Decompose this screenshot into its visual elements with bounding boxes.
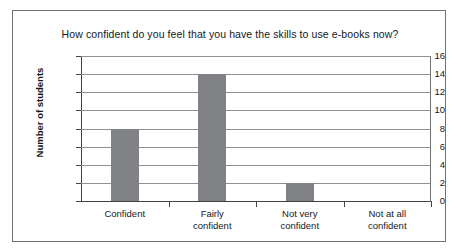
y-axis-tick [76,165,81,166]
y-axis-tick-label: 0 [399,195,445,206]
x-axis-label-line: confident [334,220,442,232]
y-axis-tick-label: 2 [399,177,445,188]
y-axis-title: Number of students [34,43,45,183]
y-axis-tick [76,201,81,202]
gridline [81,110,431,111]
x-axis-tick [431,202,432,207]
chart-title: How confident do you feel that you have … [13,28,447,40]
y-axis-tick-label: 16 [399,50,445,61]
x-axis-tick [169,202,170,207]
y-axis-tick-label: 8 [399,123,445,134]
bar [286,183,314,201]
y-axis-tick [76,56,81,57]
y-axis-tick [76,183,81,184]
x-axis-tick [344,202,345,207]
x-axis-label: Not at allconfident [334,208,442,232]
y-axis-tick [76,74,81,75]
bar [198,74,226,201]
bar [111,129,139,202]
y-axis-tick [76,110,81,111]
chart-frame: How confident do you feel that you have … [12,10,446,242]
y-axis-tick [76,129,81,130]
gridline [81,74,431,75]
y-axis-tick [76,92,81,93]
gridline [81,56,431,57]
y-axis-tick-label: 12 [399,86,445,97]
gridline [81,92,431,93]
plot-area [81,56,431,201]
x-axis-label-line: Not at all [334,208,442,220]
y-axis-tick-label: 14 [399,68,445,79]
y-axis-tick-label: 10 [399,104,445,115]
y-axis-tick [76,147,81,148]
x-axis-tick [256,202,257,207]
y-axis-tick-label: 4 [399,159,445,170]
y-axis-tick-label: 6 [399,141,445,152]
